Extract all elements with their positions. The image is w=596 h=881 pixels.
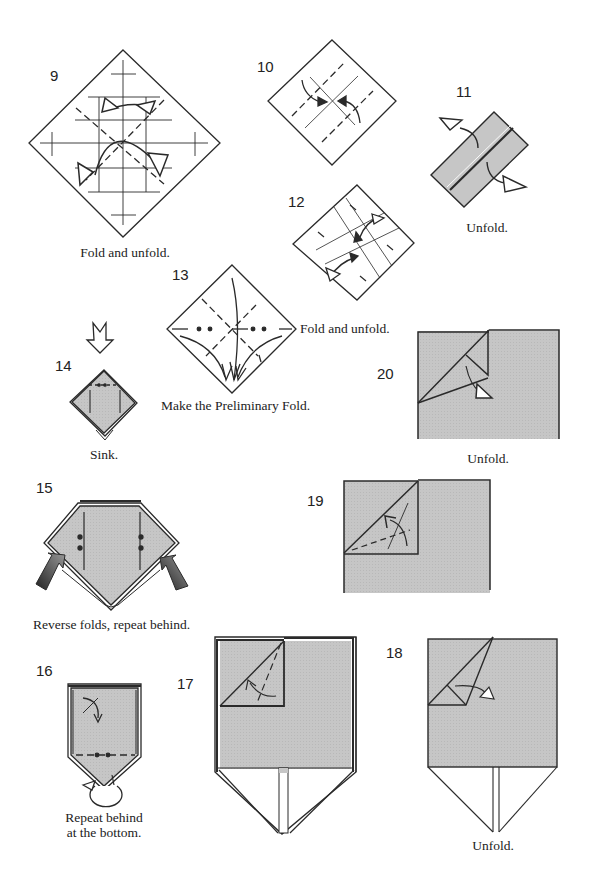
- step-15-number: 15: [36, 479, 53, 496]
- step-18-diagram: [428, 637, 557, 832]
- step-13-diagram: [167, 265, 296, 393]
- step-11-caption: Unfold.: [466, 220, 508, 236]
- step-19-number: 19: [307, 492, 324, 509]
- step-16-caption-line2: at the bottom.: [67, 825, 142, 841]
- step-19-diagram: [344, 480, 490, 593]
- step-10-diagram: [268, 40, 396, 165]
- step-9-number: 9: [50, 67, 58, 84]
- step-11-diagram: [431, 112, 528, 207]
- step-20-number: 20: [377, 365, 394, 382]
- step-14-number: 14: [55, 357, 72, 374]
- step-13-caption: Make the Preliminary Fold.: [161, 398, 310, 414]
- step-10-number: 10: [257, 58, 274, 75]
- step-12-caption: Fold and unfold.: [300, 321, 390, 337]
- step-16-caption-line1: Repeat behind: [65, 810, 143, 826]
- step-9-caption: Fold and unfold.: [80, 245, 170, 261]
- step-13-number: 13: [172, 266, 189, 283]
- step-11-number: 11: [456, 83, 472, 100]
- step-18-caption: Unfold.: [472, 838, 514, 854]
- step-17-diagram: [215, 637, 356, 834]
- step-12-diagram: [293, 185, 414, 300]
- step-16-diagram: [68, 684, 141, 807]
- step-20-caption: Unfold.: [467, 451, 509, 467]
- step-14-diagram: [70, 370, 137, 440]
- step-15-diagram: [36, 501, 188, 610]
- origami-instruction-page: 9 10 11 12 13 14 15 16 17 18 19 20 Fold …: [0, 0, 596, 881]
- step-20-diagram: [418, 330, 559, 439]
- step-14-caption: Sink.: [90, 447, 118, 463]
- push-arrow-icon: [87, 323, 113, 353]
- step-15-caption: Reverse folds, repeat behind.: [33, 617, 190, 633]
- diagrams-canvas: [0, 0, 596, 881]
- step-12-number: 12: [288, 193, 305, 210]
- step-16-number: 16: [36, 662, 53, 679]
- step-18-number: 18: [386, 644, 403, 661]
- step-17-number: 17: [177, 675, 194, 692]
